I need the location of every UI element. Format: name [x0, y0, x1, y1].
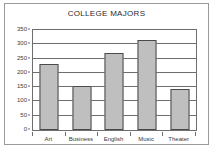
bar[interactable]	[72, 86, 91, 130]
y-tick-label: 50	[20, 112, 27, 118]
x-tick-label: Art	[32, 136, 65, 142]
bar-slot	[66, 30, 99, 130]
bar[interactable]	[170, 89, 189, 130]
x-tick-label: Music	[130, 136, 163, 142]
y-tick-label: 100	[17, 97, 27, 103]
x-tick-mark	[195, 132, 196, 136]
chart-frame: COLLEGE MAJORS 050100150200250300350 Art…	[4, 3, 209, 145]
bar[interactable]	[105, 53, 124, 130]
x-tick-label: English	[97, 136, 130, 142]
x-axis-slot: Theater	[162, 132, 195, 146]
bar-slot	[163, 30, 196, 130]
y-tick-mark	[28, 100, 30, 101]
plot-area	[32, 29, 197, 131]
y-tick-label: 200	[17, 69, 27, 75]
bar[interactable]	[40, 64, 59, 130]
x-axis-slot: Art	[32, 132, 65, 146]
x-axis: ArtBusinessEnglishMusicTheater	[32, 132, 197, 146]
bar-slot	[33, 30, 66, 130]
y-tick-mark	[28, 114, 30, 115]
bar[interactable]	[138, 40, 157, 130]
y-tick-label: 150	[17, 83, 27, 89]
x-axis-slot: Business	[65, 132, 98, 146]
x-axis-end-slot	[195, 132, 196, 146]
y-tick-mark	[28, 29, 30, 30]
x-axis-slot: English	[97, 132, 130, 146]
bar-slot	[131, 30, 164, 130]
y-tick-label: 0	[24, 126, 27, 132]
y-tick-mark	[28, 129, 30, 130]
x-tick-label: Business	[65, 136, 98, 142]
x-axis-slot: Music	[130, 132, 163, 146]
y-tick-mark	[28, 71, 30, 72]
y-tick-label: 350	[17, 26, 27, 32]
chart-title: COLLEGE MAJORS	[5, 9, 208, 18]
y-tick-label: 250	[17, 55, 27, 61]
bar-slot	[98, 30, 131, 130]
y-tick-mark	[28, 57, 30, 58]
x-tick-label: Theater	[162, 136, 195, 142]
y-tick-mark	[28, 43, 30, 44]
y-tick-label: 300	[17, 40, 27, 46]
y-tick-mark	[28, 86, 30, 87]
y-axis: 050100150200250300350	[5, 29, 30, 131]
